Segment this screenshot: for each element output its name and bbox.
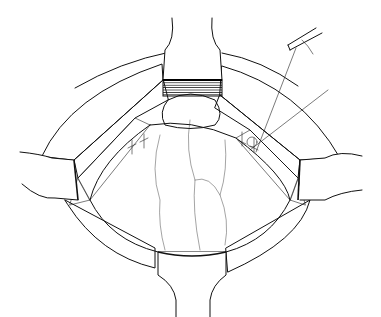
needle-holder-instrument	[250, 28, 328, 152]
top-retractor	[163, 18, 222, 96]
muscle-bands	[70, 80, 305, 205]
upper-right-fat-layer	[220, 66, 340, 160]
lower-right-fat-layer	[226, 200, 310, 272]
lower-left-fat-layer	[65, 200, 155, 268]
right-retractor	[298, 153, 362, 200]
illustration-svg	[0, 0, 381, 317]
upper-left-fat-layer	[42, 64, 163, 160]
sutures	[128, 132, 258, 154]
skin-line-upper-left	[75, 52, 170, 88]
left-retractor	[20, 152, 78, 200]
surgical-illustration	[0, 0, 381, 317]
bottom-retractor	[158, 252, 226, 317]
